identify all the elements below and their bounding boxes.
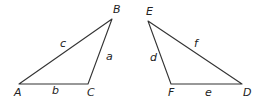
side-label-a: a <box>106 50 113 63</box>
side-label-d: d <box>150 51 158 64</box>
triangles-diagram: A B C a b c E F D d e f <box>0 0 254 107</box>
side-label-b: b <box>52 84 59 97</box>
vertex-label-f: F <box>168 86 175 99</box>
vertex-label-c: C <box>87 86 95 99</box>
triangle-def <box>148 21 242 84</box>
side-label-f: f <box>194 37 200 50</box>
vertex-label-b: B <box>113 3 121 16</box>
vertex-label-e: E <box>146 5 153 18</box>
triangle-abc <box>19 19 112 84</box>
side-label-c: c <box>60 37 66 50</box>
vertex-label-d: D <box>243 86 251 99</box>
vertex-label-a: A <box>13 86 22 99</box>
side-label-e: e <box>205 86 212 99</box>
